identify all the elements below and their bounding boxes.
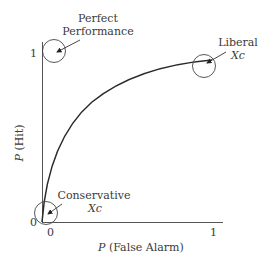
perfect-label-line1: Perfect	[78, 12, 118, 25]
conservative-label-line1: Conservative	[58, 189, 131, 202]
y-axis-title: P (Hit)	[13, 124, 26, 162]
conservative-label-line2: Xc	[87, 202, 102, 215]
liberal-label-line1: Liberal	[218, 36, 258, 49]
y-axis-title-rest: (Hit)	[13, 124, 26, 154]
liberal-label-line2: Xc	[230, 49, 245, 62]
x-axis-title: P (False Alarm)	[97, 241, 184, 254]
roc-figure: 1 0 0 1 Perfect Performance Liberal Xc C…	[0, 0, 269, 261]
y-tick-0: 0	[30, 216, 37, 229]
liberal-pointer	[207, 52, 226, 63]
y-tick-1: 1	[30, 47, 37, 60]
perfect-performance-circle	[43, 40, 66, 63]
x-tick-0: 0	[47, 226, 54, 239]
x-tick-1: 1	[210, 226, 217, 239]
perfect-label-line2: Performance	[62, 25, 133, 38]
liberal-circle	[193, 55, 216, 78]
x-axis-title-rest: (False Alarm)	[105, 241, 183, 254]
conservative-circle	[35, 202, 58, 225]
